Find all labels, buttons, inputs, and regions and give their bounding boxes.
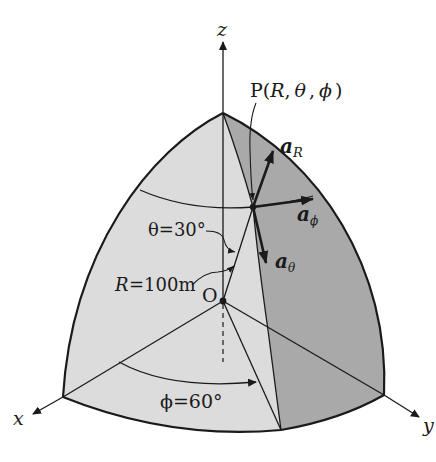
theta-annotation: θ=30°	[148, 219, 206, 240]
y-axis-label: y	[422, 414, 434, 436]
origin-label: O	[202, 284, 218, 306]
origin-dot	[220, 298, 227, 305]
x-axis-arrow	[33, 397, 63, 414]
R-annotation-value: =100m	[129, 274, 196, 295]
phi-annotation: ϕ=60°	[160, 390, 223, 412]
x-axis-label: x	[13, 407, 24, 429]
diagram-canvas: z x y P(R,θ,ϕ) aR aϕ aθ θ=30° RR=100m =1…	[0, 0, 436, 462]
z-axis-label: z	[216, 18, 228, 40]
point-P-label: P(R,θ,ϕ)	[250, 79, 342, 101]
spherical-octant-figure: z x y P(R,θ,ϕ) aR aϕ aθ θ=30° RR=100m =1…	[0, 0, 436, 462]
aR-label: aR	[280, 134, 303, 160]
y-axis-arrow	[384, 395, 419, 417]
